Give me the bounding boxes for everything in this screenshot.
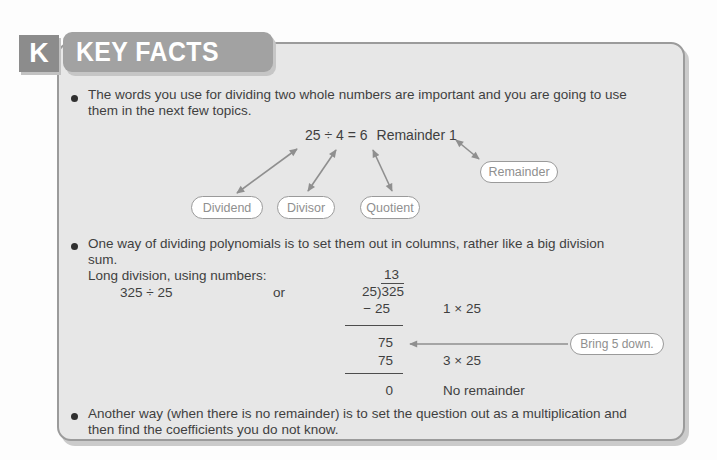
division-equation: 25 ÷ 4 = 6 Remainder 1 xyxy=(305,127,457,143)
division-quotient-row: 13 xyxy=(345,267,404,282)
remainder-label-text: Remainder xyxy=(488,165,549,179)
remainder-label: Remainder xyxy=(480,161,558,183)
division-dividend: 325 xyxy=(381,283,404,299)
bullet-2-text: One way of dividing polynomials is to se… xyxy=(88,236,604,267)
bring-down-callout: Bring 5 down. xyxy=(570,333,664,355)
division-expression: 325 ÷ 25 xyxy=(120,285,172,300)
divisor-label: Divisor xyxy=(277,196,335,219)
bullet-2-line-1: One way of dividing polynomials is to se… xyxy=(88,236,604,252)
division-rule-1 xyxy=(345,325,403,326)
bullet-dot xyxy=(71,413,78,420)
equation-expression: 25 ÷ 4 = 6 xyxy=(305,127,368,143)
bullet-1-text: The words you use for dividing two whole… xyxy=(88,87,627,118)
division-subtract-row: − 25 xyxy=(345,301,404,316)
division-product-row: 75 xyxy=(345,353,404,368)
bullet-3-line-2: then find the coefficients you do not kn… xyxy=(88,422,627,438)
bullet-1-line-2: them in the next few topics. xyxy=(88,103,627,119)
section-letter: K xyxy=(29,38,49,69)
dividend-label: Dividend xyxy=(191,196,263,219)
bullet-dot xyxy=(71,95,78,102)
division-note-3: No remainder xyxy=(443,383,525,398)
division-zero-row: 0 xyxy=(345,383,404,398)
dividend-label-text: Dividend xyxy=(203,201,252,215)
long-division-intro: Long division, using numbers: xyxy=(88,268,267,283)
divisor-label-text: Divisor xyxy=(287,201,325,215)
or-label: or xyxy=(273,285,285,300)
equation-remainder: Remainder 1 xyxy=(377,127,457,143)
bullet-1-line-1: The words you use for dividing two whole… xyxy=(88,87,627,103)
key-facts-title: KEY FACTS xyxy=(63,37,219,68)
division-rule-2 xyxy=(345,373,403,374)
bullet-3-line-1: Another way (when there is no remainder)… xyxy=(88,406,627,422)
bullet-2-line-2: sum. xyxy=(88,252,604,268)
section-letter-tab: K xyxy=(19,35,59,72)
division-bring-down-row: 75 xyxy=(345,335,404,350)
key-facts-page: K KEY FACTS The words you use for dividi… xyxy=(0,0,717,460)
quotient-label-text: Quotient xyxy=(366,201,413,215)
division-bracket-row: 25)325 xyxy=(345,283,404,299)
division-divisor: 25 xyxy=(362,284,377,299)
bullet-dot xyxy=(71,243,78,250)
division-note-1: 1 × 25 xyxy=(443,301,481,316)
key-facts-banner: KEY FACTS xyxy=(63,32,273,72)
bullet-3-text: Another way (when there is no remainder)… xyxy=(88,406,627,437)
division-note-2: 3 × 25 xyxy=(443,353,481,368)
quotient-label: Quotient xyxy=(360,196,420,219)
bring-down-callout-text: Bring 5 down. xyxy=(580,337,653,351)
